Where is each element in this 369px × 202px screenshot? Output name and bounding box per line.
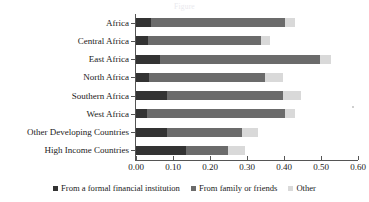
bar-row bbox=[136, 14, 358, 32]
plot-area bbox=[136, 14, 358, 160]
bar-segment[interactable] bbox=[136, 146, 186, 155]
bar-segment[interactable] bbox=[265, 73, 283, 82]
stacked-bar[interactable] bbox=[136, 109, 295, 118]
y-axis-label: Central Africa bbox=[1, 36, 129, 46]
bar-segment[interactable] bbox=[228, 146, 245, 155]
legend-label: Other bbox=[296, 183, 316, 193]
legend-label: From family or friends bbox=[199, 183, 278, 193]
x-axis-tick bbox=[284, 156, 285, 160]
bar-row bbox=[136, 124, 358, 142]
stacked-bar[interactable] bbox=[136, 91, 301, 100]
bar-segment[interactable] bbox=[136, 18, 151, 27]
legend-item[interactable]: From family or friends bbox=[191, 183, 278, 193]
x-axis-line bbox=[135, 160, 358, 161]
bar-segment[interactable] bbox=[160, 55, 320, 64]
bar-segment[interactable] bbox=[167, 91, 283, 100]
legend-item[interactable]: From a formal financial institution bbox=[53, 183, 180, 193]
bar-segment[interactable] bbox=[151, 18, 285, 27]
x-axis-tick bbox=[247, 156, 248, 160]
stacked-bar[interactable] bbox=[136, 146, 245, 155]
y-axis-tick bbox=[131, 23, 135, 24]
y-axis-label: Africa bbox=[1, 18, 129, 28]
x-axis-label: 0.00 bbox=[116, 162, 156, 173]
y-axis-label: East Africa bbox=[1, 54, 129, 64]
bar-segment[interactable] bbox=[285, 109, 295, 118]
x-axis-tick bbox=[210, 156, 211, 160]
x-axis-tick bbox=[358, 156, 359, 160]
bar-row bbox=[136, 87, 358, 105]
y-axis-label: North Africa bbox=[1, 72, 129, 82]
legend-swatch-icon bbox=[53, 186, 58, 191]
y-axis-label: Southern Africa bbox=[1, 91, 129, 101]
bar-row bbox=[136, 105, 358, 123]
bar-segment[interactable] bbox=[136, 128, 167, 137]
bar-segment[interactable] bbox=[320, 55, 331, 64]
bar-segment[interactable] bbox=[136, 55, 160, 64]
y-axis-tick bbox=[131, 150, 135, 151]
x-axis-label: 0.20 bbox=[190, 162, 230, 173]
y-axis-label: High Income Countries bbox=[1, 145, 129, 155]
legend-swatch-icon bbox=[288, 186, 293, 191]
bar-segment[interactable] bbox=[285, 18, 295, 27]
bar-row bbox=[136, 51, 358, 69]
bar-segment[interactable] bbox=[283, 91, 301, 100]
legend-swatch-icon bbox=[191, 186, 196, 191]
bar-segment[interactable] bbox=[167, 128, 242, 137]
cut-off-title: Figure bbox=[0, 0, 369, 11]
bar-segment[interactable] bbox=[147, 109, 285, 118]
x-axis-tick bbox=[136, 156, 137, 160]
x-axis-label: 0.60 bbox=[338, 162, 369, 173]
bar-segment[interactable] bbox=[149, 73, 265, 82]
legend-label: From a formal financial institution bbox=[61, 183, 180, 193]
stacked-bar[interactable] bbox=[136, 73, 283, 82]
x-axis-tick bbox=[173, 156, 174, 160]
x-axis-label: 0.50 bbox=[301, 162, 341, 173]
bar-segment[interactable] bbox=[148, 36, 261, 45]
bar-segment[interactable] bbox=[136, 91, 167, 100]
stacked-bar-chart: Figure AfricaCentral AfricaEast AfricaNo… bbox=[0, 0, 369, 202]
stray-speck bbox=[352, 106, 354, 108]
x-axis-label: 0.10 bbox=[153, 162, 193, 173]
y-axis-tick bbox=[131, 114, 135, 115]
stacked-bar[interactable] bbox=[136, 18, 295, 27]
x-axis-tick bbox=[321, 156, 322, 160]
bar-segment[interactable] bbox=[261, 36, 270, 45]
bar-row bbox=[136, 32, 358, 50]
bar-segment[interactable] bbox=[136, 36, 148, 45]
y-axis-tick bbox=[131, 59, 135, 60]
bar-segment[interactable] bbox=[186, 146, 228, 155]
legend-item[interactable]: Other bbox=[288, 183, 316, 193]
y-axis-tick bbox=[131, 96, 135, 97]
bar-row bbox=[136, 69, 358, 87]
y-axis-tick bbox=[131, 132, 135, 133]
bar-segment[interactable] bbox=[242, 128, 258, 137]
x-axis-label: 0.30 bbox=[227, 162, 267, 173]
stacked-bar[interactable] bbox=[136, 36, 270, 45]
bar-segment[interactable] bbox=[136, 109, 147, 118]
x-axis-label: 0.40 bbox=[264, 162, 304, 173]
y-axis-tick bbox=[131, 41, 135, 42]
y-axis-label: Other Developing Countries bbox=[1, 127, 129, 137]
stacked-bar[interactable] bbox=[136, 55, 331, 64]
chart-legend: From a formal financial institutionFrom … bbox=[0, 183, 369, 193]
stacked-bar[interactable] bbox=[136, 128, 258, 137]
bar-segment[interactable] bbox=[136, 73, 149, 82]
y-axis-label: West Africa bbox=[1, 109, 129, 119]
y-axis-tick bbox=[131, 77, 135, 78]
